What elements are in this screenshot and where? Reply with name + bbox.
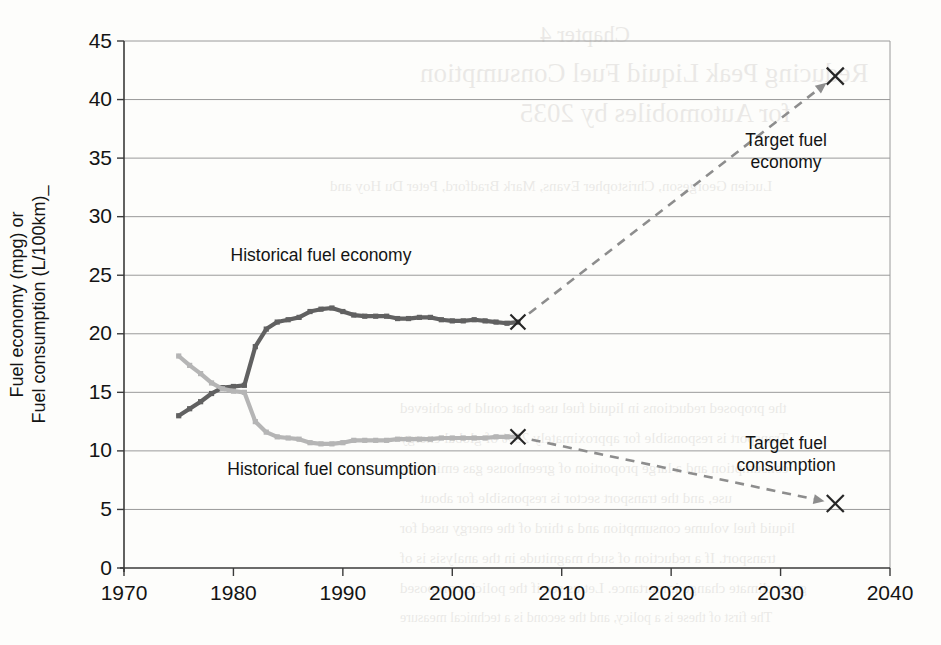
- series-point: [286, 317, 291, 322]
- series-point: [493, 319, 498, 324]
- y-axis-title-line1: Fuel economy (mpg) or: [7, 211, 27, 397]
- series-point: [296, 315, 301, 320]
- annotation-target-fuel-consumption-line1: Target fuel: [745, 433, 827, 453]
- series-line-fuel-consumption: [179, 356, 518, 444]
- target-fuel-economy-dashed-line: [529, 90, 818, 314]
- series-point: [264, 326, 269, 331]
- series-point: [504, 434, 509, 439]
- y-tick-label: 40: [89, 87, 112, 110]
- series-point: [439, 435, 444, 440]
- annotation-historical-fuel-economy: Historical fuel economy: [231, 245, 412, 265]
- y-tick-label: 0: [100, 556, 112, 579]
- series-point: [275, 319, 280, 324]
- y-tick-label: 45: [89, 29, 112, 52]
- series-point: [450, 318, 455, 323]
- series-point: [318, 441, 323, 446]
- series-point: [504, 321, 509, 326]
- y-tick-label: 10: [89, 438, 112, 461]
- series-point: [187, 363, 192, 368]
- series-point: [231, 384, 236, 389]
- series-point: [176, 413, 181, 418]
- x-tick-label: 1980: [210, 581, 257, 604]
- y-tick-label: 30: [89, 204, 112, 227]
- series-point: [296, 437, 301, 442]
- annotation-historical-fuel-consumption: Historical fuel consumption: [227, 459, 436, 479]
- x-tick-label: 1990: [319, 581, 366, 604]
- series-line-fuel-economy: [179, 308, 518, 416]
- series-point: [242, 383, 247, 388]
- target-fuel-economy-arrowhead: [815, 83, 827, 94]
- series-point: [362, 314, 367, 319]
- series-point: [209, 391, 214, 396]
- series-point: [384, 314, 389, 319]
- series-point: [198, 371, 203, 376]
- series-point: [439, 317, 444, 322]
- series-point: [428, 437, 433, 442]
- series-point: [307, 440, 312, 445]
- y-tick-label: 5: [100, 497, 112, 520]
- series-point: [384, 438, 389, 443]
- chart-container: 0510152025303540451970198019902000201020…: [0, 0, 941, 645]
- series-point: [461, 435, 466, 440]
- series-point: [307, 309, 312, 314]
- series-point: [253, 344, 258, 349]
- x-tick-label: 2020: [648, 581, 695, 604]
- series-point: [329, 441, 334, 446]
- series-point: [318, 307, 323, 312]
- series-point: [472, 317, 477, 322]
- series-point: [406, 316, 411, 321]
- series-point: [242, 390, 247, 395]
- x-tick-label: 1970: [101, 581, 148, 604]
- series-point: [275, 434, 280, 439]
- series-point: [450, 435, 455, 440]
- x-tick-label: 2040: [867, 581, 914, 604]
- series-point: [395, 437, 400, 442]
- y-tick-label: 35: [89, 146, 112, 169]
- x-tick-label: 2000: [429, 581, 476, 604]
- annotation-target-fuel-economy-line2: economy: [751, 152, 822, 172]
- series-point: [253, 419, 258, 424]
- target-fuel-consumption-arrowhead: [813, 494, 825, 504]
- series-point: [286, 435, 291, 440]
- series-point: [351, 438, 356, 443]
- series-point: [461, 318, 466, 323]
- series-point: [373, 438, 378, 443]
- series-point: [417, 437, 422, 442]
- series-point: [472, 435, 477, 440]
- y-axis-title-line2: Fuel consumption (L/100km)_: [29, 184, 50, 423]
- series-point: [417, 315, 422, 320]
- x-tick-label: 2010: [538, 581, 585, 604]
- series-point: [264, 430, 269, 435]
- y-tick-label: 15: [89, 380, 112, 403]
- series-point: [340, 440, 345, 445]
- series-point: [483, 435, 488, 440]
- series-point: [395, 316, 400, 321]
- series-point: [373, 314, 378, 319]
- series-point: [340, 309, 345, 314]
- series-point: [220, 386, 225, 391]
- series-point: [493, 434, 498, 439]
- y-axis-title: Fuel economy (mpg) orFuel consumption (L…: [7, 184, 50, 423]
- series-point: [428, 315, 433, 320]
- series-point: [406, 437, 411, 442]
- y-tick-label: 25: [89, 263, 112, 286]
- series-point: [176, 353, 181, 358]
- series-point: [351, 312, 356, 317]
- series-point: [362, 438, 367, 443]
- series-point: [329, 305, 334, 310]
- x-tick-label: 2030: [757, 581, 804, 604]
- annotation-target-fuel-economy-line1: Target fuel: [745, 130, 827, 150]
- series-point: [231, 389, 236, 394]
- series-point: [198, 399, 203, 404]
- y-tick-label: 20: [89, 321, 112, 344]
- fuel-economy-consumption-chart: 0510152025303540451970198019902000201020…: [0, 0, 941, 645]
- series-point: [209, 380, 214, 385]
- series-point: [483, 318, 488, 323]
- annotation-target-fuel-consumption-line2: consumption: [736, 455, 835, 475]
- series-point: [187, 406, 192, 411]
